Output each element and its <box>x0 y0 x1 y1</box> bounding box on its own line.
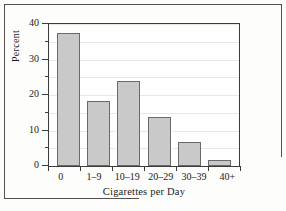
x-axis-tick-label: 0 <box>44 171 77 182</box>
page-frame-left-border <box>4 4 5 199</box>
y-axis-tick-label: 30 <box>29 54 39 64</box>
page-frame-top-border <box>4 4 282 5</box>
y-axis-tick-label: 20 <box>29 89 39 99</box>
page-frame-right-border <box>281 4 282 157</box>
x-axis-title: Cigarettes per Day <box>48 186 240 197</box>
bar <box>87 101 110 166</box>
figure-container: Percent 010203040 01–910–1920–2930–3940+… <box>0 0 286 211</box>
page-frame-bottom-border <box>4 198 139 199</box>
x-axis-tick-label: 1–9 <box>77 171 110 182</box>
bar-series <box>49 24 239 166</box>
x-axis-tick-label: 30–39 <box>177 171 210 182</box>
y-axis-title: Percent <box>10 30 21 62</box>
x-axis-tick-label: 20–29 <box>144 171 177 182</box>
y-axis-tick-label: 40 <box>29 18 39 28</box>
x-axis-tick-label: 10–19 <box>111 171 144 182</box>
y-axis-tick-label: 10 <box>29 125 39 135</box>
plot-area <box>48 23 240 167</box>
x-axis-tick-label: 40+ <box>211 171 244 182</box>
bar <box>178 142 201 166</box>
bar <box>117 81 140 166</box>
x-axis-tick-labels: 01–910–1920–2930–3940+ <box>44 171 244 182</box>
bar <box>148 117 171 166</box>
bar <box>57 33 80 166</box>
y-axis-tick-label: 0 <box>34 160 39 170</box>
